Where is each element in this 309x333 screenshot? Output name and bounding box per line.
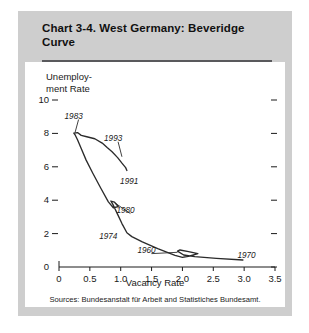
annotation-leader-lines xyxy=(75,120,177,254)
beveridge-curve-plot xyxy=(25,62,285,307)
y-tick-label: 0 xyxy=(33,261,49,272)
data-point-label: 1991 xyxy=(120,177,138,186)
chart-panel: Unemploy- ment Rate 0246810 00.51.01.52.… xyxy=(25,62,285,307)
x-axis-title: Vacancy Rate xyxy=(25,277,285,288)
y-tick-label: 10 xyxy=(33,94,49,105)
data-point-label: 1974 xyxy=(99,232,117,241)
data-point-label: 1970 xyxy=(237,251,255,260)
chart-card: Chart 3-4. West Germany: Beveridge Curve… xyxy=(18,11,292,316)
y-tick-label: 4 xyxy=(33,194,49,205)
data-point-label: 1983 xyxy=(65,112,83,121)
data-point-label: 1980 xyxy=(116,206,134,215)
plot-axes xyxy=(52,100,277,271)
data-point-label: 1960 xyxy=(137,246,155,255)
screenshot-root: Chart 3-4. West Germany: Beveridge Curve… xyxy=(0,0,309,333)
data-point-label: 1993 xyxy=(104,134,122,143)
y-tick-label: 2 xyxy=(33,228,49,239)
source-note: Sources: Bundesanstalt für Arbeit and St… xyxy=(25,295,285,304)
y-tick-label: 6 xyxy=(33,161,49,172)
y-tick-label: 8 xyxy=(33,127,49,138)
page-title: Chart 3-4. West Germany: Beveridge Curve xyxy=(42,21,270,49)
